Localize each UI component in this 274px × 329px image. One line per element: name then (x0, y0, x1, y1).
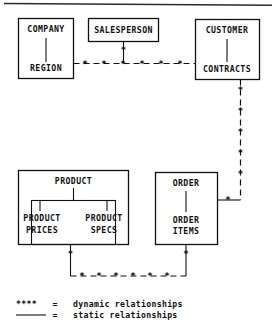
diagram-canvas: COMPANY REGION SALESPERSON CUSTOMER CONT… (0, 0, 274, 329)
relationship-marker: * (130, 271, 135, 281)
relationship-marker: * (238, 148, 243, 158)
relationship-marker: * (177, 59, 182, 69)
relationship-marker: * (238, 169, 243, 179)
product-specs-label-line2: SPECS (91, 225, 118, 235)
relationship-marker: * (113, 271, 118, 281)
product-inner-box[interactable]: PRODUCT PRICES PRODUCT SPECS (23, 188, 122, 245)
customer-contracts-box[interactable]: CUSTOMER CONTRACTS (196, 20, 260, 80)
relationship-marker: * (158, 59, 163, 69)
legend-dynamic-symbol: **** (16, 299, 37, 309)
order-box[interactable]: ORDER ORDER ITEMS (156, 173, 218, 245)
legend-dynamic-equals: = (53, 299, 58, 309)
company-region-box[interactable]: COMPANY REGION (19, 19, 74, 79)
legend-static-text: static relationships (73, 310, 178, 320)
legend-row-static: = static relationships (16, 310, 178, 320)
salesperson-box[interactable]: SALESPERSON (89, 19, 159, 42)
scan-edge-artifact (4, 4, 272, 6)
salesperson-label: SALESPERSON (94, 25, 153, 35)
relationship-marker: * (164, 271, 169, 281)
relationship-marker: * (147, 271, 152, 281)
relationship-marker: * (139, 59, 144, 69)
relationship-marker: * (79, 271, 84, 281)
relationship-contracts-order[interactable]: * * * * * * (218, 80, 244, 206)
relationship-marker: * (225, 195, 230, 205)
relationship-company-customer[interactable]: * * * * * * (74, 59, 196, 69)
order-items-label-line2: ITEMS (173, 226, 200, 236)
product-prices-label-line2: PRICES (26, 225, 58, 235)
legend-dynamic-text: dynamic relationships (73, 299, 183, 309)
legend-row-dynamic: **** = dynamic relationships (16, 299, 183, 309)
relationship-marker: * (82, 59, 87, 69)
relationship-marker: * (96, 271, 101, 281)
order-items-label-line1: ORDER (173, 215, 200, 225)
customer-label: CUSTOMER (206, 25, 249, 35)
contracts-label: CONTRACTS (203, 64, 251, 74)
legend-static-equals: = (53, 310, 58, 320)
legend: **** = dynamic relationships = static re… (16, 299, 183, 320)
relationship-marker: * (101, 59, 106, 69)
relationship-marker: * (238, 85, 243, 95)
entity-relationship-diagram: COMPANY REGION SALESPERSON CUSTOMER CONT… (0, 0, 274, 329)
region-label: REGION (30, 63, 62, 73)
product-specs-label-line1: PRODUCT (85, 213, 122, 223)
product-label: PRODUCT (55, 176, 92, 186)
company-label: COMPANY (27, 24, 64, 34)
order-label: ORDER (173, 178, 200, 188)
relationship-marker: * (183, 249, 188, 259)
relationship-product-order[interactable]: * * * * * * * * (68, 245, 189, 282)
product-prices-label-line1: PRODUCT (23, 213, 60, 223)
relationship-marker: * (121, 45, 126, 55)
relationship-marker: * (238, 106, 243, 116)
relationship-marker: * (68, 249, 73, 259)
relationship-marker: * (238, 127, 243, 137)
product-box[interactable]: PRODUCT PRODUCT PRICES PRODUCT SPECS (19, 171, 129, 245)
